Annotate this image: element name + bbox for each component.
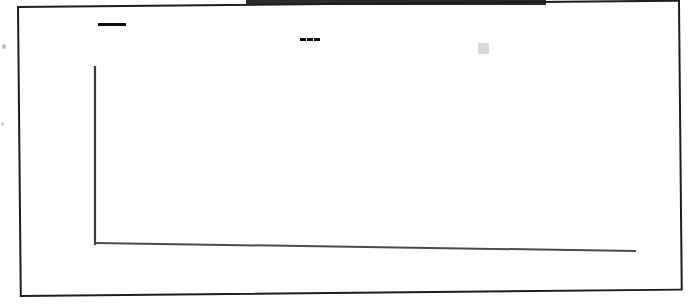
chart-screenshot xyxy=(0,0,693,307)
x-axis-line xyxy=(95,243,636,251)
plot-area xyxy=(0,0,693,307)
